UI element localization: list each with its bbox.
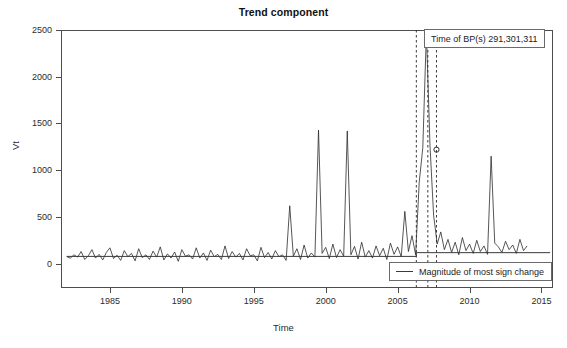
x-tick-mark (398, 288, 399, 293)
y-tick-mark (56, 30, 61, 31)
y-axis-label: Vt (10, 141, 21, 150)
chart-canvas (61, 30, 553, 288)
y-tick-label: 2000 (32, 72, 52, 82)
y-tick-mark (56, 170, 61, 171)
x-tick-mark (326, 288, 327, 293)
y-tick-mark (56, 217, 61, 218)
x-tick-label: 2015 (531, 296, 551, 306)
x-tick-label: 2010 (460, 296, 480, 306)
x-tick-mark (470, 288, 471, 293)
x-tick-mark (541, 288, 542, 293)
trend-component-figure: Trend component Vt Time 0500100015002000… (0, 0, 567, 348)
y-tick-label: 2500 (32, 25, 52, 35)
y-tick-mark (56, 77, 61, 78)
legend-line-swatch-icon (396, 271, 413, 272)
legend-breakpoints-label: Time of BP(s) 291,301,311 (431, 34, 538, 44)
series-line-1 (67, 253, 550, 257)
x-tick-label: 1985 (100, 296, 120, 306)
x-tick-label: 2005 (388, 296, 408, 306)
y-tick-label: 1500 (32, 118, 52, 128)
x-tick-mark (254, 288, 255, 293)
y-tick-mark (56, 264, 61, 265)
x-tick-label: 1995 (244, 296, 264, 306)
legend-magnitude: Magnitude of most sign change (389, 262, 552, 281)
x-tick-mark (182, 288, 183, 293)
legend-magnitude-label: Magnitude of most sign change (419, 267, 544, 277)
y-tick-mark (56, 123, 61, 124)
x-tick-label: 1990 (172, 296, 192, 306)
y-tick-label: 500 (37, 212, 52, 222)
x-axis-label: Time (0, 322, 567, 333)
y-tick-label: 1000 (32, 165, 52, 175)
chart-title: Trend component (0, 6, 567, 18)
y-tick-label: 0 (47, 259, 52, 269)
series-line-0 (67, 32, 527, 261)
x-tick-label: 2000 (316, 296, 336, 306)
legend-breakpoints: Time of BP(s) 291,301,311 (424, 29, 545, 48)
plot-area (61, 30, 553, 288)
x-tick-mark (110, 288, 111, 293)
